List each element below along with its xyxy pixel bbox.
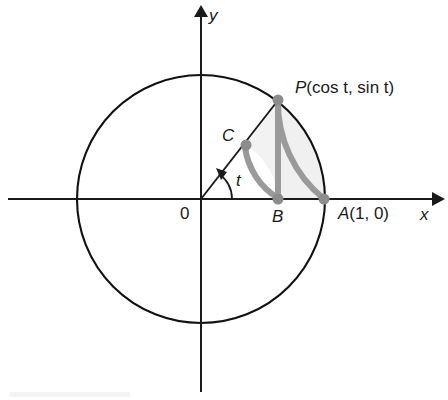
point-marker-C [241,140,252,151]
point-label-B: B [272,207,283,226]
x-axis-label: x [419,205,429,224]
figure-container: y x 0 P(cos t, sin t) A(1, 0) B C t [0,0,448,400]
point-label-C: C [222,126,235,145]
origin-label: 0 [180,204,189,223]
point-marker-P [273,95,284,106]
y-axis-arrowhead [194,5,208,17]
point-label-A-letter: A [337,204,349,223]
y-axis-label: y [208,6,219,25]
unit-circle-figure: y x 0 P(cos t, sin t) A(1, 0) B C t [0,0,448,400]
point-label-P-args: (cos t, sin t) [306,78,394,97]
point-marker-A [319,194,330,205]
point-label-P: P(cos t, sin t) [295,78,394,97]
x-axis-arrowhead [432,192,445,206]
scan-artifact [10,392,130,397]
point-label-P-letter: P [295,78,307,97]
point-label-A: A(1, 0) [337,204,389,223]
axes-group [8,5,445,392]
point-marker-B [273,194,284,205]
point-label-A-args: (1, 0) [349,204,389,223]
angle-label-t: t [236,171,242,190]
angle-t-group [216,168,232,199]
